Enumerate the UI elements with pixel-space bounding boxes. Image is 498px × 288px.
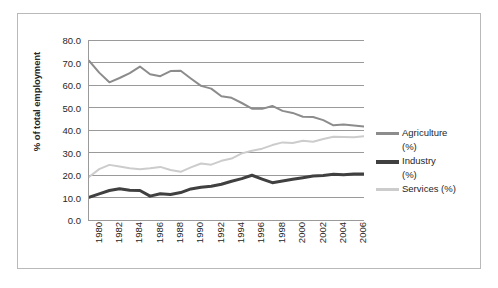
x-tick-label: 1994 [235, 222, 246, 243]
legend-swatch-icon [376, 188, 399, 191]
y-tick-label: 0.0 [68, 215, 81, 226]
legend-swatch-icon [376, 132, 399, 135]
x-tick-label: 2006 [357, 222, 368, 243]
x-tick-label: 2002 [317, 222, 328, 243]
x-tick-label: 1992 [215, 222, 226, 243]
x-tick-label: 2000 [296, 222, 307, 243]
x-tick-label: 1984 [133, 222, 144, 243]
y-tick-label: 50.0 [63, 102, 82, 113]
series-line-2 [89, 174, 364, 197]
x-tick-label: 1986 [154, 222, 165, 243]
y-tick-label: 40.0 [63, 125, 82, 136]
x-axis-tick-labels: 1980198219841986198819901992199419961998… [88, 222, 363, 268]
chart-legend: Agriculture (%)Industry (%)Services (%) [376, 126, 488, 197]
y-tick-label: 30.0 [63, 147, 82, 158]
y-tick-label: 60.0 [63, 80, 82, 91]
legend-label: Services (%) [402, 182, 456, 196]
x-tick-label: 1996 [255, 222, 266, 243]
series-line-3 [89, 136, 364, 177]
y-axis-title: % of total employment [31, 22, 42, 182]
legend-item[interactable]: Agriculture (%) [376, 126, 488, 153]
y-tick-label: 20.0 [63, 170, 82, 181]
y-tick-label: 10.0 [63, 192, 82, 203]
x-tick-label: 1980 [93, 222, 104, 243]
x-tick-label: 1990 [194, 222, 205, 243]
plot-svg [89, 40, 364, 220]
series-line-1 [89, 61, 364, 127]
legend-item[interactable]: Industry (%) [376, 154, 488, 181]
x-tick-label: 1988 [174, 222, 185, 243]
y-tick-label: 70.0 [63, 57, 82, 68]
y-tick-label: 80.0 [63, 35, 82, 46]
y-axis-tick-labels: 0.010.020.030.040.050.060.070.080.0 [42, 40, 84, 220]
plot-area [88, 40, 364, 221]
legend-label: Agriculture (%) [402, 126, 447, 153]
chart-figure: % of total employment 0.010.020.030.040.… [0, 0, 498, 288]
x-tick-label: 1982 [113, 222, 124, 243]
legend-item[interactable]: Services (%) [376, 182, 488, 196]
legend-label: Industry (%) [402, 154, 436, 181]
x-tick-label: 2004 [337, 222, 348, 243]
x-tick-label: 1998 [276, 222, 287, 243]
legend-swatch-icon [376, 160, 399, 164]
